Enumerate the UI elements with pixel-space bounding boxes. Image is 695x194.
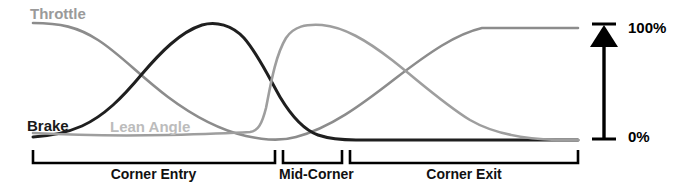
series-label-brake: Brake <box>27 118 69 133</box>
percent-scale-axis <box>590 24 618 139</box>
bracket-corner-exit <box>350 150 578 163</box>
bracket-mid-corner <box>283 150 342 163</box>
scale-label-min: 0% <box>628 129 650 144</box>
riding-phase-line-chart <box>0 0 695 194</box>
series-label-throttle: Throttle <box>30 6 86 21</box>
phase-label-corner-exit: Corner Exit <box>350 167 578 181</box>
scale-arrowhead-icon <box>590 25 618 47</box>
bracket-corner-entry <box>33 150 275 163</box>
scale-label-max: 100% <box>628 20 666 35</box>
phase-label-corner-entry: Corner Entry <box>32 167 275 181</box>
phase-label-mid-corner: Mid-Corner <box>279 167 345 181</box>
chart-container: Throttle Brake Lean Angle Corner Entry M… <box>0 0 695 194</box>
series-label-lean-angle: Lean Angle <box>110 119 190 134</box>
